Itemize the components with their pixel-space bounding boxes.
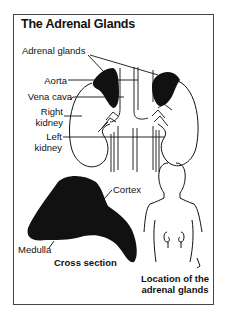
- figure-right-side: [176, 163, 202, 232]
- label-cross-section: Cross section: [54, 257, 117, 268]
- label-aorta: Aorta: [28, 75, 67, 86]
- leader-adrenal-left: [90, 55, 158, 75]
- label-left-kidney: Left kidney: [28, 131, 62, 153]
- label-adrenal-glands: Adrenal glands: [22, 45, 85, 56]
- label-location: Location of the adrenal glands: [138, 273, 212, 295]
- label-vena-cava: Vena cava: [17, 91, 72, 102]
- label-medulla: Medulla: [18, 244, 51, 255]
- figure-left-side: [144, 163, 168, 232]
- label-cortex: Cortex: [113, 184, 141, 195]
- label-right-kidney: Right kidney: [28, 106, 63, 128]
- leader-adrenal-right: [88, 55, 104, 72]
